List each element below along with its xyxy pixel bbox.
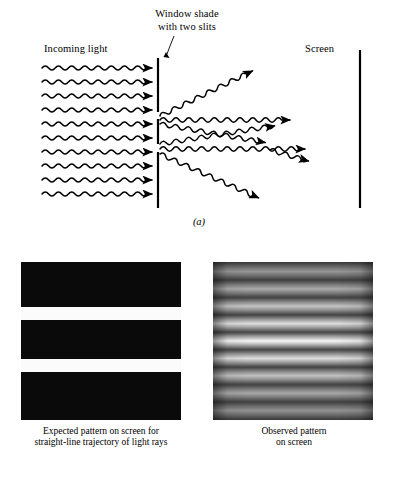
observed-caption-line2: on screen — [276, 437, 312, 447]
observed-pattern-caption: Observed pattern on screen — [208, 426, 380, 448]
panel-a-ray-diagram: Incoming light Window shade with two sli… — [0, 0, 398, 240]
lower-slit-ray-down — [159, 152, 259, 200]
upper-slit-rays-group — [159, 69, 290, 145]
incoming-rays-group — [42, 66, 152, 196]
shade-leader-arrowhead — [164, 52, 170, 58]
observed-caption-line1: Observed pattern — [261, 426, 326, 436]
window-shade-label: Window shade with two slits — [116, 8, 258, 33]
recombined-wave-ray — [269, 148, 309, 163]
incoming-ray-10 — [42, 192, 152, 196]
incoming-light-label: Incoming light — [44, 43, 108, 55]
expected-pattern-caption: Expected pattern on screen for straight-… — [6, 426, 196, 448]
incoming-ray-4 — [42, 108, 152, 112]
incoming-ray-6 — [42, 136, 152, 140]
incoming-ray-2 — [42, 80, 152, 84]
lower-slit-ray-straight — [160, 147, 305, 151]
upper-slit-ray-straight — [160, 118, 290, 122]
lower-bright-band — [21, 359, 181, 372]
panel-a-letter: (a) — [0, 216, 398, 227]
incoming-ray-9 — [42, 178, 152, 182]
upper-slit-ray-up — [159, 69, 253, 118]
incoming-ray-8 — [42, 164, 152, 168]
window-shade-label-line2: with two slits — [158, 21, 216, 32]
incoming-ray-5 — [42, 122, 152, 126]
upper-bright-band — [21, 307, 181, 320]
shade-leader-line — [167, 36, 174, 54]
incoming-ray-1 — [42, 66, 152, 70]
incoming-ray-3 — [42, 94, 152, 98]
window-shade-label-line1: Window shade — [155, 8, 218, 19]
double-slit-figure: Incoming light Window shade with two sli… — [0, 0, 398, 488]
expected-caption-line2: straight-line trajectory of light rays — [35, 437, 168, 447]
ray-diagram-svg — [0, 0, 398, 240]
panel-b-patterns: Expected pattern on screen for straight-… — [0, 248, 398, 488]
lower-slit-rays-group — [159, 124, 305, 200]
expected-pattern-image — [21, 262, 181, 420]
observed-pattern-image — [213, 262, 373, 420]
recombined-wave-group — [269, 148, 309, 163]
incoming-ray-7 — [42, 150, 152, 154]
expected-pattern-field — [21, 262, 181, 420]
observed-pattern-field — [213, 262, 373, 420]
expected-caption-line1: Expected pattern on screen for — [43, 426, 159, 436]
screen-label: Screen — [305, 43, 334, 55]
